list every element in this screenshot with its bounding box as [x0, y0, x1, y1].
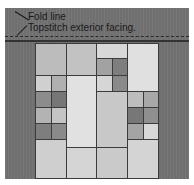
topstitch-label: Topstitch exterior facing. [28, 23, 136, 33]
fabric-patch [96, 58, 113, 76]
fabric-patch [66, 75, 97, 148]
fabric-patch [96, 43, 128, 59]
fabric-patch [35, 75, 52, 92]
fabric-patch [127, 91, 144, 108]
fabric-patch [143, 91, 159, 108]
topstitch-line [5, 36, 189, 37]
fabric-patch [143, 107, 159, 124]
fold-line [5, 40, 189, 42]
fabric-patch [112, 75, 128, 92]
fabric-patch [127, 139, 159, 179]
fabric-patch [35, 123, 52, 140]
fabric-patch [66, 43, 97, 76]
fabric-patch [51, 75, 67, 92]
fabric-patch [112, 58, 128, 76]
fabric-patch [143, 123, 159, 140]
fabric-patch [51, 123, 67, 140]
fabric-patch [51, 107, 67, 124]
fabric-patch [96, 75, 113, 92]
fabric-patch [96, 91, 128, 148]
fabric-patch [35, 107, 52, 124]
fabric-patch [35, 91, 52, 108]
fabric-patch [127, 107, 144, 124]
fabric-patch [127, 123, 144, 140]
fabric-patch [35, 43, 67, 76]
fabric-patch [35, 139, 67, 179]
fabric-patch [96, 147, 128, 179]
fold-line-label: Fold line [28, 12, 66, 22]
fabric-patch [66, 147, 97, 179]
fabric-patch [51, 91, 67, 108]
fabric-patch [127, 43, 159, 92]
